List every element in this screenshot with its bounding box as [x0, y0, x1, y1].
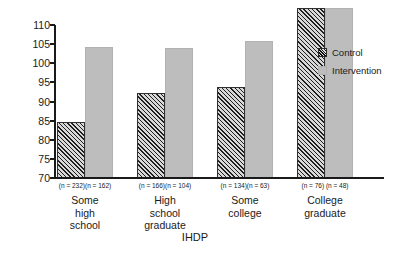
label-line: school [125, 207, 205, 220]
label-line: Some [205, 194, 285, 207]
sample-size-annotation: (n = 76) (n = 48) [285, 182, 365, 190]
chart-legend: Control Intervention [318, 47, 382, 83]
chart-figure: 110 105 100 95 90 85 80 75 70 [0, 0, 416, 256]
bar-intervention-college-graduate [325, 8, 353, 179]
sample-size-annotation: (n = 134)(n = 63) [205, 182, 285, 190]
label-line: school [45, 219, 125, 232]
bar-intervention-some-college [245, 41, 273, 179]
legend-item-control: Control [318, 47, 382, 58]
legend-swatch-intervention-icon [318, 66, 327, 75]
sample-size-annotation: (n = 166)(n = 104) [125, 182, 205, 190]
x-axis-line [54, 177, 384, 179]
legend-item-intervention: Intervention [318, 65, 382, 76]
label-line: high [45, 207, 125, 220]
bar-control-college-graduate [297, 8, 325, 179]
bars-layer [0, 0, 416, 179]
x-category-label-high-school-graduate: High school graduate [125, 194, 205, 232]
x-category-label-college-graduate: College graduate [285, 194, 365, 219]
x-axis-title: IHDP [0, 231, 390, 243]
label-line: college [205, 207, 285, 220]
bar-intervention-some-high-school [85, 47, 113, 179]
x-category-label-some-college: Some college [205, 194, 285, 219]
bar-control-some-college [217, 87, 245, 179]
label-line: graduate [125, 219, 205, 232]
x-category-label-some-high-school: Some high school [45, 194, 125, 232]
legend-swatch-control-icon [318, 48, 327, 57]
bar-control-some-high-school [57, 122, 85, 179]
label-line: Some [45, 194, 125, 207]
bar-control-high-school-graduate [137, 93, 165, 179]
label-line: College [285, 194, 365, 207]
label-line: graduate [285, 207, 365, 220]
bar-intervention-high-school-graduate [165, 48, 193, 179]
legend-label-intervention: Intervention [332, 65, 382, 76]
label-line: High [125, 194, 205, 207]
sample-size-annotation: (n = 232)(n = 162) [45, 182, 125, 190]
legend-label-control: Control [332, 47, 363, 58]
